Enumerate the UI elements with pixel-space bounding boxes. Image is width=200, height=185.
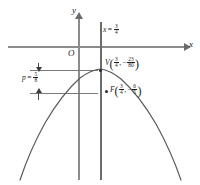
directrix-equals: =	[108, 25, 112, 34]
focus-point-letter: F	[110, 85, 115, 94]
focus-y-sign: −	[127, 85, 131, 94]
parabola-diagram: y x O x=34 V(34,−2380) F(34,−65) p=58	[0, 0, 200, 185]
parabola-curve	[0, 0, 200, 185]
focus-label: F(34,−65)	[110, 84, 141, 96]
x-axis-label: x	[189, 40, 193, 49]
vertex-y-sign: −	[122, 58, 126, 67]
vertex-x-fraction: 34	[114, 57, 119, 69]
directrix-denominator: 4	[114, 29, 119, 35]
vertex-x-denominator: 4	[114, 62, 119, 68]
y-axis-label: y	[72, 6, 76, 15]
directrix-fraction: 34	[114, 24, 119, 36]
focal-parameter-denominator: 8	[33, 77, 38, 83]
focus-close-paren: )	[137, 84, 141, 98]
focal-parameter-variable: p	[22, 73, 26, 82]
focus-point-marker	[105, 90, 108, 93]
focus-x-fraction: 34	[119, 84, 124, 96]
vertex-close-paren: )	[135, 57, 139, 71]
vertex-point-marker	[99, 69, 102, 72]
vertex-point-letter: V	[105, 58, 110, 67]
vertex-comma: ,	[119, 58, 121, 67]
focus-open-paren: (	[115, 84, 119, 98]
focus-x-denominator: 4	[119, 89, 124, 95]
focal-parameter-fraction: 58	[33, 72, 38, 84]
directrix-equation-label: x=34	[103, 24, 119, 36]
origin-label: O	[68, 49, 75, 58]
focal-parameter-equals: =	[27, 73, 31, 82]
vertex-y-denominator: 80	[127, 62, 134, 68]
vertex-y-fraction: 2380	[127, 57, 134, 69]
vertex-open-paren: (	[110, 57, 114, 71]
directrix-variable: x	[103, 25, 106, 34]
focal-parameter-label: p=58	[22, 72, 39, 84]
focus-comma: ,	[124, 85, 126, 94]
vertex-label: V(34,−2380)	[105, 57, 139, 69]
